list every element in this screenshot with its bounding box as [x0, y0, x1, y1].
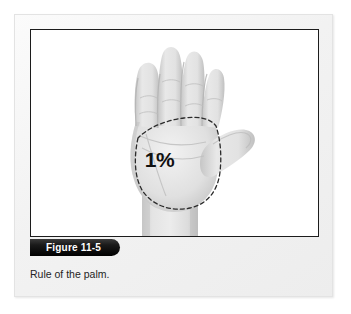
- figure-caption: Rule of the palm.: [30, 267, 310, 281]
- figure-number-label: Figure 11-5: [46, 242, 101, 253]
- figure-image-plate: 1%: [30, 29, 319, 237]
- figure-number-tab: Figure 11-5: [30, 239, 120, 256]
- figure-card: 1% Figure 11-5 Rule of the palm.: [14, 14, 333, 297]
- hand-photo-graphic: [80, 30, 270, 236]
- hand-illustration: 1%: [31, 30, 318, 236]
